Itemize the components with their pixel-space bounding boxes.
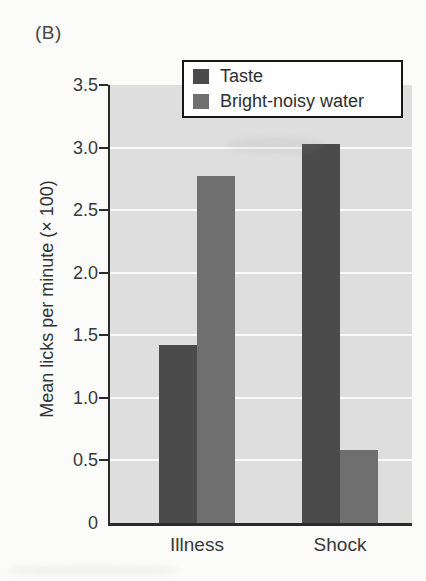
x-tick-label-shock: Shock (314, 534, 367, 556)
y-axis-tick-1.0 (99, 397, 108, 399)
y-axis-tick-3.5 (99, 84, 108, 86)
y-axis-tick-2.0 (99, 272, 108, 274)
gridline-2.5 (110, 209, 412, 211)
y-tick-label-0: 0 (58, 514, 98, 532)
y-tick-label-3.5: 3.5 (58, 76, 98, 94)
y-axis-tick-2.5 (99, 209, 108, 211)
bar-shock-taste (302, 144, 340, 523)
y-axis-tick-0.5 (99, 459, 108, 461)
legend-swatch-bright-noisy-water (193, 94, 209, 109)
y-tick-label-3.0: 3.0 (58, 139, 98, 157)
y-axis-tick-3.0 (99, 147, 108, 149)
legend-entry-taste: Taste (193, 66, 401, 88)
bar-shock-bright-noisy-water (340, 450, 378, 523)
bar-illness-taste (159, 345, 197, 523)
y-tick-label-1.5: 1.5 (58, 326, 98, 344)
y-tick-label-2.0: 2.0 (58, 264, 98, 282)
gridline-2.0 (110, 272, 412, 274)
legend-label-taste: Taste (220, 66, 263, 87)
y-axis-tick-1.5 (99, 334, 108, 336)
y-tick-label-2.5: 2.5 (58, 201, 98, 219)
x-tick-label-illness: Illness (170, 534, 224, 556)
gridline-3.0 (110, 147, 412, 149)
figure-panel-b: (B) Mean licks per minute (× 100) 00.51.… (0, 0, 426, 581)
gridline-1.5 (110, 334, 412, 336)
y-tick-label-0.5: 0.5 (58, 451, 98, 469)
panel-label: (B) (35, 22, 62, 44)
legend-label-bright-noisy-water: Bright-noisy water (220, 91, 364, 112)
scan-bleedthrough-smudge (8, 566, 178, 575)
plot-area: 00.51.01.52.02.53.03.5 (108, 85, 412, 526)
bar-illness-bright-noisy-water (197, 176, 235, 523)
y-axis-title: Mean licks per minute (× 100) (37, 180, 58, 418)
legend-swatch-taste (193, 69, 209, 84)
y-tick-label-1.0: 1.0 (58, 389, 98, 407)
gridline-1.0 (110, 397, 412, 399)
legend-entry-bright-noisy-water: Bright-noisy water (193, 91, 401, 113)
legend-box: Taste Bright-noisy water (182, 60, 403, 118)
